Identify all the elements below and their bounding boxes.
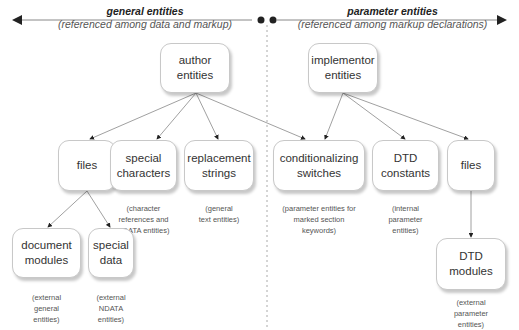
files-left-box: files bbox=[58, 140, 116, 191]
dtd-modules-box: DTD modules bbox=[436, 238, 506, 290]
dtd-constants-box: DTD constants bbox=[372, 140, 439, 191]
conditionalizing-switches-note: (parameter entities for marked section k… bbox=[268, 203, 370, 236]
dtd-constants-note: (internal parameter entities) bbox=[372, 203, 439, 236]
document-modules-box: document modules bbox=[12, 228, 81, 278]
dot-icon bbox=[258, 17, 265, 24]
document-modules-note: (external general entities) bbox=[12, 292, 81, 325]
dot-icon bbox=[270, 17, 277, 24]
conditionalizing-switches-box: conditionalizing switches bbox=[273, 140, 365, 191]
dtd-modules-note: (external parameter entities) bbox=[436, 297, 506, 330]
special-data-note: (external NDATA entities) bbox=[84, 292, 138, 325]
replacement-strings-box: replacement strings bbox=[184, 140, 254, 191]
implementor-entities-box: implementor entities bbox=[308, 43, 378, 93]
special-data-box: special data bbox=[88, 228, 134, 278]
header-title: general entities bbox=[40, 5, 250, 18]
left-arrow-icon bbox=[12, 15, 22, 25]
parameter-entities-header: parameter entities (referenced among mar… bbox=[285, 5, 500, 31]
header-subtitle: (referenced among data and markup) bbox=[40, 18, 250, 31]
general-entities-header: general entities (referenced among data … bbox=[40, 5, 250, 31]
header-subtitle: (referenced among markup declarations) bbox=[285, 18, 500, 31]
files-right-box: files bbox=[447, 140, 495, 191]
author-entities-box: author entities bbox=[160, 43, 230, 93]
header-title: parameter entities bbox=[285, 5, 500, 18]
replacement-strings-note: (general text entities) bbox=[184, 203, 254, 225]
special-characters-box: special characters bbox=[110, 140, 177, 191]
